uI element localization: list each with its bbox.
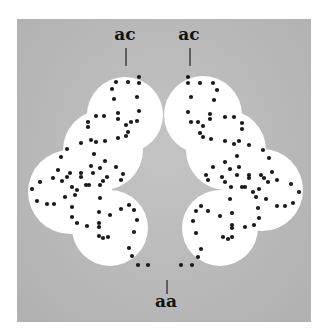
dot bbox=[199, 204, 203, 208]
dot bbox=[243, 225, 247, 229]
dot bbox=[270, 170, 274, 174]
dot bbox=[208, 112, 212, 116]
dot bbox=[259, 173, 263, 177]
dot bbox=[63, 195, 67, 199]
left-blob bbox=[28, 77, 163, 266]
blob-circle bbox=[72, 190, 148, 266]
dot bbox=[186, 110, 190, 114]
dot bbox=[223, 139, 227, 143]
dot bbox=[79, 141, 83, 145]
dot bbox=[235, 173, 239, 177]
dot bbox=[65, 147, 69, 151]
dot bbox=[129, 120, 133, 124]
dot bbox=[223, 115, 227, 119]
dot bbox=[230, 211, 234, 215]
dot bbox=[230, 235, 234, 239]
dot bbox=[38, 180, 42, 184]
dot bbox=[297, 190, 301, 194]
dot bbox=[70, 205, 74, 209]
dot bbox=[116, 117, 120, 121]
dot bbox=[97, 210, 101, 214]
dot bbox=[135, 119, 139, 123]
dot bbox=[101, 179, 105, 183]
label-top-right: ac bbox=[178, 24, 199, 44]
dot bbox=[59, 155, 63, 159]
dot bbox=[194, 209, 198, 213]
dot bbox=[211, 165, 215, 169]
diagram-canvas: ac ac aa bbox=[0, 0, 327, 335]
dot bbox=[232, 115, 236, 119]
dot bbox=[221, 235, 225, 239]
dot bbox=[110, 87, 114, 91]
dot bbox=[124, 123, 128, 127]
dot bbox=[35, 199, 39, 203]
dot bbox=[65, 175, 69, 179]
dot bbox=[91, 171, 95, 175]
dot bbox=[103, 159, 107, 163]
dot bbox=[102, 114, 106, 118]
dot bbox=[211, 81, 215, 85]
dot bbox=[254, 195, 258, 199]
dot bbox=[264, 197, 268, 201]
dot bbox=[201, 124, 205, 128]
dot bbox=[199, 247, 203, 251]
dot bbox=[261, 148, 265, 152]
dot bbox=[198, 81, 202, 85]
dot bbox=[126, 80, 130, 84]
dot bbox=[208, 117, 212, 121]
dot bbox=[68, 171, 72, 175]
dot bbox=[108, 213, 112, 217]
dot bbox=[121, 172, 125, 176]
dot bbox=[135, 95, 139, 99]
dot bbox=[196, 255, 200, 259]
dot bbox=[106, 235, 110, 239]
dot bbox=[252, 223, 256, 227]
dot bbox=[232, 142, 236, 146]
dot bbox=[198, 131, 202, 135]
dot bbox=[86, 120, 90, 124]
dot bbox=[146, 263, 150, 267]
dot bbox=[75, 221, 79, 225]
dot bbox=[257, 187, 261, 191]
dot bbox=[247, 176, 251, 180]
dot bbox=[112, 97, 116, 101]
dot bbox=[87, 183, 91, 187]
dot bbox=[212, 98, 216, 102]
dot bbox=[230, 226, 234, 230]
figure: ac ac aa bbox=[0, 0, 327, 335]
dot bbox=[126, 130, 130, 134]
dot bbox=[228, 167, 232, 171]
dot bbox=[237, 165, 241, 169]
dot bbox=[267, 156, 271, 160]
dot bbox=[218, 214, 222, 218]
dot bbox=[247, 143, 251, 147]
dot bbox=[119, 178, 123, 182]
dot bbox=[132, 230, 136, 234]
dot bbox=[124, 134, 128, 138]
dot bbox=[229, 185, 233, 189]
dot bbox=[206, 209, 210, 213]
dot bbox=[92, 152, 96, 156]
label-top-left: ac bbox=[114, 24, 135, 44]
dot bbox=[291, 201, 295, 205]
dot bbox=[240, 121, 244, 125]
dot bbox=[60, 179, 64, 183]
dot bbox=[114, 165, 118, 169]
dot bbox=[179, 263, 183, 267]
dot bbox=[223, 180, 227, 184]
dot bbox=[79, 171, 83, 175]
dot bbox=[186, 75, 190, 79]
dot bbox=[226, 237, 230, 241]
dot bbox=[243, 185, 247, 189]
dot bbox=[220, 175, 224, 179]
dot bbox=[97, 221, 101, 225]
dot bbox=[137, 81, 141, 85]
dot bbox=[116, 111, 120, 115]
dot bbox=[266, 180, 270, 184]
dot bbox=[240, 127, 244, 131]
dot bbox=[127, 203, 131, 207]
dot bbox=[275, 204, 279, 208]
label-bottom: aa bbox=[155, 291, 177, 311]
dot bbox=[98, 183, 102, 187]
dot bbox=[127, 246, 131, 250]
